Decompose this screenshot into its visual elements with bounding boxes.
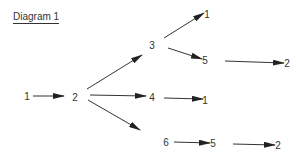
arrow-n2-to-n3	[87, 55, 142, 89]
arrow-n2-to-n6	[88, 100, 140, 130]
node-n6_5_2: 2	[275, 140, 281, 151]
arrow-n6-to-n6_5	[174, 142, 210, 143]
arrow-n6_5-to-n6_5_2	[233, 144, 275, 145]
node-n3_5: 5	[202, 55, 208, 66]
node-n3_5_2: 2	[284, 58, 290, 69]
arrow-n3-to-n3_1	[164, 13, 204, 38]
arrow-n3_5-to-n3_5_2	[225, 61, 284, 63]
node-n2: 2	[72, 92, 78, 103]
node-n4: 4	[149, 92, 155, 103]
node-n6_5: 5	[210, 138, 216, 149]
node-n6: 6	[163, 137, 169, 148]
node-n4_1: 1	[202, 95, 208, 106]
arrow-n2-to-n4	[90, 95, 146, 96]
node-n1: 1	[24, 91, 30, 102]
node-n3: 3	[149, 40, 155, 51]
edges-group	[33, 13, 284, 145]
nodes-group: 12315241652	[24, 9, 290, 151]
node-n3_1: 1	[204, 9, 210, 20]
arrow-n4-to-n4_1	[164, 98, 203, 99]
tree-diagram: 12315241652	[0, 0, 296, 157]
arrow-n3-to-n3_5	[168, 48, 202, 59]
